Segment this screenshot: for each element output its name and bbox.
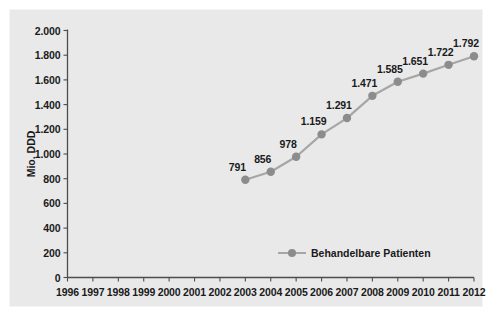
y-tick-label: 400 (43, 222, 60, 234)
x-tick-label: 2002 (208, 286, 231, 298)
series-line-behandelbare-patienten (245, 56, 474, 180)
y-tick-label: 0 (55, 272, 61, 284)
x-tick-label: 2000 (158, 286, 181, 298)
data-point-marker (394, 78, 402, 86)
x-tick-label: 2005 (285, 286, 308, 298)
x-tick-label: 1999 (132, 286, 155, 298)
y-tick-label: 1.800 (35, 49, 61, 61)
y-tick-label: 1.600 (35, 74, 61, 86)
data-point-label: 791 (229, 161, 246, 173)
legend-label: Behandelbare Patienten (311, 247, 431, 259)
x-tick-label: 1996 (56, 286, 79, 298)
x-tick-label: 1997 (81, 286, 104, 298)
x-tick-label: 2006 (310, 286, 333, 298)
chart-figure: Mio. DDD 02004006008001.0001.2001.4001.6… (0, 0, 492, 316)
chart-plot-area (0, 0, 492, 316)
data-point-label: 978 (280, 138, 297, 150)
legend-marker-swatch (278, 248, 306, 258)
x-tick-label: 2001 (183, 286, 206, 298)
data-point-label: 1.585 (377, 63, 403, 75)
legend-circle-icon (288, 249, 296, 257)
data-point-marker (419, 69, 427, 77)
data-point-label: 1.159 (301, 115, 327, 127)
x-tick-label: 2003 (234, 286, 257, 298)
data-point-marker (292, 153, 300, 161)
x-tick-label: 2007 (335, 286, 358, 298)
chart-legend: Behandelbare Patienten (278, 247, 431, 259)
x-tick-label: 2009 (386, 286, 409, 298)
x-tick-label: 2004 (259, 286, 282, 298)
data-point-marker (368, 92, 376, 100)
y-tick-label: 800 (43, 173, 60, 185)
y-tick-label: 200 (43, 247, 60, 259)
x-tick-label: 2012 (463, 286, 486, 298)
data-point-label: 1.722 (428, 46, 454, 58)
data-point-marker (343, 114, 351, 122)
y-tick-label: 2.000 (35, 25, 61, 37)
data-point-label: 1.651 (402, 55, 428, 67)
data-point-marker (241, 176, 249, 184)
x-tick-label: 2010 (412, 286, 435, 298)
y-tick-label: 1.000 (35, 148, 61, 160)
y-tick-label: 1.200 (35, 123, 61, 135)
x-tick-label: 2008 (361, 286, 384, 298)
x-tick-label: 1998 (107, 286, 130, 298)
data-point-marker (317, 130, 325, 138)
series-markers-behandelbare-patienten (241, 52, 478, 184)
y-tick-label: 600 (43, 197, 60, 209)
x-tick-label: 2011 (437, 286, 459, 298)
data-point-label: 1.291 (326, 99, 352, 111)
data-point-marker (470, 52, 478, 60)
data-point-label: 1.471 (351, 77, 377, 89)
data-point-label: 1.792 (453, 37, 479, 49)
data-point-label: 856 (254, 153, 271, 165)
y-tick-label: 1.400 (35, 99, 61, 111)
data-point-marker (444, 61, 452, 69)
data-point-marker (267, 168, 275, 176)
